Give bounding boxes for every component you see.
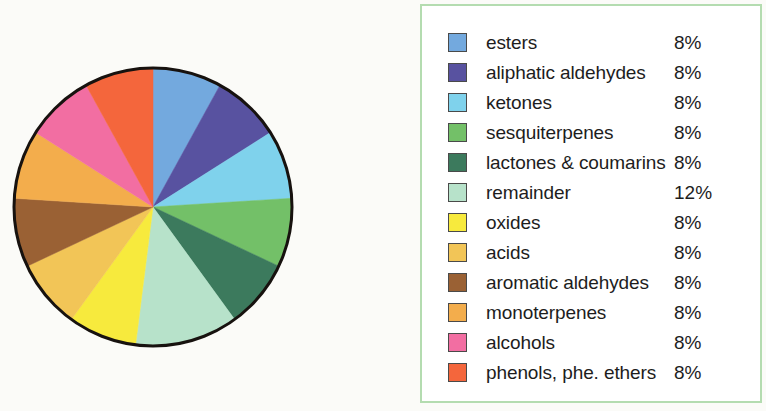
legend-item[interactable]: aliphatic aldehydes8% [422, 58, 760, 88]
legend-color-swatch [448, 33, 467, 52]
legend-item-value: 8% [674, 238, 730, 268]
legend-item-label: oxides [486, 208, 540, 238]
pie-chart-svg [8, 62, 298, 352]
pie-chart-area [0, 0, 410, 411]
legend-item-label: ketones [486, 88, 552, 118]
legend-list: esters8%aliphatic aldehydes8%ketones8%se… [422, 28, 760, 388]
legend-item-label: esters [486, 28, 537, 58]
legend-item-label: phenols, phe. ethers [486, 358, 656, 388]
legend-color-swatch [448, 153, 467, 172]
legend-color-swatch [448, 333, 467, 352]
legend-item-label: alcohols [486, 328, 555, 358]
legend-color-swatch [448, 273, 467, 292]
legend-item[interactable]: phenols, phe. ethers8% [422, 358, 760, 388]
legend-item-value: 8% [674, 358, 730, 388]
legend-item[interactable]: alcohols8% [422, 328, 760, 358]
legend-item[interactable]: ketones8% [422, 88, 760, 118]
legend-color-swatch [448, 213, 467, 232]
legend-item-value: 8% [674, 148, 730, 178]
legend-item[interactable]: aromatic aldehydes8% [422, 268, 760, 298]
legend-color-swatch [448, 243, 467, 262]
legend-item[interactable]: remainder12% [422, 178, 760, 208]
pie-chart-figure: esters8%aliphatic aldehydes8%ketones8%se… [0, 0, 766, 411]
legend-item-value: 8% [674, 88, 730, 118]
legend-item-label: sesquiterpenes [486, 118, 613, 148]
legend-color-swatch [448, 63, 467, 82]
legend-item-label: monoterpenes [486, 298, 606, 328]
legend-item[interactable]: lactones & coumarins8% [422, 148, 760, 178]
legend-item-value: 8% [674, 268, 730, 298]
legend-item[interactable]: monoterpenes8% [422, 298, 760, 328]
legend-color-swatch [448, 363, 467, 382]
legend-item-value: 8% [674, 118, 730, 148]
legend-color-swatch [448, 123, 467, 142]
legend-item[interactable]: sesquiterpenes8% [422, 118, 760, 148]
legend-item-label: acids [486, 238, 530, 268]
legend-item-value: 8% [674, 58, 730, 88]
legend-panel: esters8%aliphatic aldehydes8%ketones8%se… [420, 4, 762, 403]
legend-item-label: remainder [486, 178, 571, 208]
legend-item-value: 8% [674, 28, 730, 58]
legend-color-swatch [448, 93, 467, 112]
legend-item-value: 8% [674, 328, 730, 358]
legend-color-swatch [448, 303, 467, 322]
legend-item-value: 8% [674, 208, 730, 238]
legend-item-label: aromatic aldehydes [486, 268, 649, 298]
legend-item-value: 8% [674, 298, 730, 328]
legend-item[interactable]: acids8% [422, 238, 760, 268]
legend-item-value: 12% [674, 178, 730, 208]
legend-item[interactable]: oxides8% [422, 208, 760, 238]
legend-item-label: aliphatic aldehydes [486, 58, 646, 88]
legend-item[interactable]: esters8% [422, 28, 760, 58]
legend-item-label: lactones & coumarins [486, 148, 666, 178]
legend-color-swatch [448, 183, 467, 202]
